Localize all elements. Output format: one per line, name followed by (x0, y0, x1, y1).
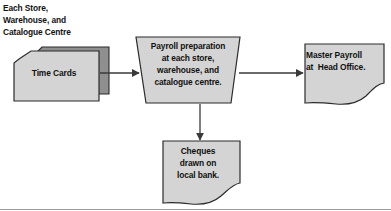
time-cards-label: Time Cards (18, 68, 90, 79)
master-payroll-label: Master Payroll at Head Office. (306, 50, 386, 74)
payroll-process-label: Payroll preparation at each store, wareh… (132, 41, 244, 89)
diagram-canvas: Each Store, Warehouse, and Catalogue Cen… (0, 0, 391, 211)
diagram-caption: Each Store, Warehouse, and Catalogue Cen… (3, 3, 71, 39)
cheques-label: Cheques drawn on local bank. (164, 146, 232, 182)
